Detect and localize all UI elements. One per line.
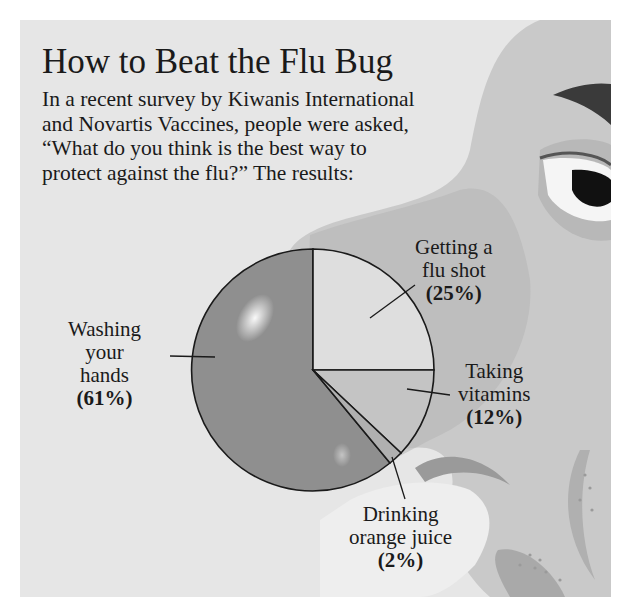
label-text: Getting a bbox=[415, 236, 493, 259]
label-text: hands bbox=[68, 364, 141, 387]
leader-line-orange-juice bbox=[392, 457, 405, 499]
label-vitamins: Taking vitamins (12%) bbox=[458, 360, 530, 429]
label-percent: (61%) bbox=[68, 387, 141, 410]
label-text: vitamins bbox=[458, 383, 530, 406]
infographic-panel: How to Beat the Flu Bug In a recent surv… bbox=[20, 20, 611, 597]
label-text: orange juice bbox=[349, 526, 452, 549]
label-text: your bbox=[68, 341, 141, 364]
label-text: Washing bbox=[68, 318, 141, 341]
label-percent: (25%) bbox=[415, 282, 493, 305]
label-orange-juice: Drinking orange juice (2%) bbox=[349, 503, 452, 572]
label-washing-hands: Washing your hands (61%) bbox=[68, 318, 141, 410]
pie-chart bbox=[20, 20, 611, 597]
label-percent: (12%) bbox=[458, 406, 530, 429]
pie-highlight bbox=[333, 443, 351, 467]
label-flu-shot: Getting a flu shot (25%) bbox=[415, 236, 493, 305]
label-text: flu shot bbox=[415, 259, 493, 282]
label-text: Drinking bbox=[349, 503, 452, 526]
label-percent: (2%) bbox=[349, 549, 452, 572]
label-text: Taking bbox=[458, 360, 530, 383]
